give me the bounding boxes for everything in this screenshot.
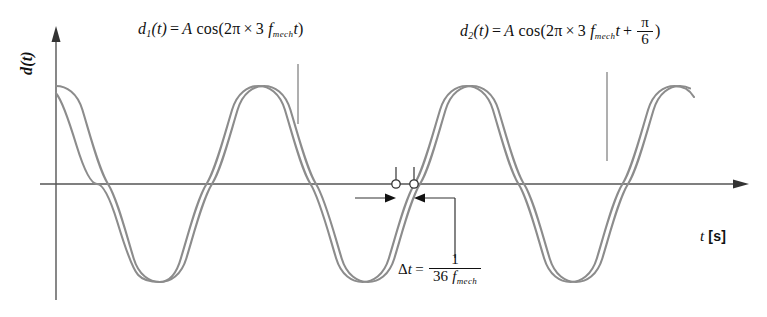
eq2-amplitude: A	[504, 22, 514, 39]
eq1-freq-sub: mech	[273, 29, 294, 39]
delta-t-numerator: 1	[429, 252, 481, 269]
eq2-func: cos(	[519, 22, 546, 39]
eq2-phase-denominator: 6	[637, 32, 653, 48]
delta-arrow-left-head	[385, 193, 396, 202]
delta-symbol: Δ	[398, 261, 408, 277]
eq2-lhs-var: d	[460, 22, 468, 39]
zero-crossing-marker-d2	[392, 180, 400, 188]
delta-t-measure-group	[355, 167, 455, 258]
eq1-harmonic: 3	[256, 20, 264, 37]
eq2-times: ×	[562, 22, 577, 39]
delta-t-equation: Δt=136 fmech	[398, 253, 483, 287]
eq1-lhs-arg: (t)	[151, 20, 167, 37]
delta-t-den-sub: mech	[457, 276, 478, 286]
delta-t-equals: =	[412, 261, 427, 277]
eq2-two-pi: 2π	[546, 22, 562, 39]
eq1-two-pi: 2π	[224, 20, 240, 37]
eq1-times: ×	[240, 20, 255, 37]
eq2-equals: =	[489, 22, 504, 39]
y-axis-arrowhead	[52, 26, 61, 42]
x-axis-label: t [s]	[700, 228, 726, 245]
eq1-func: cos(	[197, 20, 224, 37]
eq1-equals: =	[167, 20, 182, 37]
equation-d1: d1(t)=A cos(2π×3 fmecht)	[138, 20, 304, 39]
eq2-phase-numerator: π	[637, 15, 653, 32]
delta-t-den-coef: 36	[433, 268, 448, 284]
eq2-close: )	[655, 22, 661, 39]
eq1-close: )	[298, 20, 304, 37]
x-axis-arrowhead	[733, 180, 749, 189]
eq1-amplitude: A	[182, 20, 192, 37]
y-axis-label: d(t)	[18, 51, 36, 75]
delta-t-fraction: 136 fmech	[429, 252, 481, 286]
equation-d2: d2(t)=A cos(2π×3 fmecht+π6)	[460, 16, 661, 49]
eq2-freq-sub: mech	[595, 31, 616, 41]
eq2-harmonic: 3	[578, 22, 586, 39]
eq2-plus: +	[620, 22, 635, 39]
eq2-phase-fraction: π6	[637, 15, 653, 48]
delta-t-denominator: 36 fmech	[429, 269, 481, 286]
zero-crossing-marker-d1	[410, 180, 418, 188]
eq2-lhs-arg: (t)	[473, 22, 489, 39]
eq1-lhs-var: d	[138, 20, 146, 37]
